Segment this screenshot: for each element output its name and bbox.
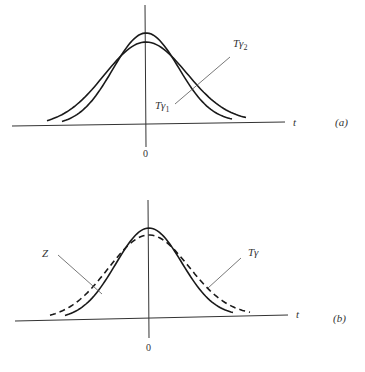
panel-b-leader-t-gamma	[208, 258, 241, 288]
panel-b-label-z: Z	[42, 247, 49, 259]
panel-a-label-t-gamma-1: Tγ1	[155, 99, 169, 114]
panel-a-vertical-axis	[145, 5, 146, 147]
panel-b-leader-z	[58, 255, 102, 294]
panel-a-panel-label: (a)	[335, 116, 348, 129]
panel-a-t-axis	[12, 122, 285, 126]
gaussian-pulse-figure: Tγ2 Tγ1 t (a) 0 Z Tγ t (b) 0	[0, 0, 365, 372]
panel-a-label-t-gamma-2: Tγ2	[233, 37, 247, 52]
panel-b-panel-label: (b)	[333, 312, 346, 325]
panel-a: Tγ2 Tγ1 t (a) 0	[12, 5, 348, 159]
panel-b-t-axis	[15, 315, 288, 321]
panel-a-leader-line	[175, 57, 230, 104]
panel-b-origin-label: 0	[146, 342, 151, 353]
panel-b-vertical-axis	[148, 200, 149, 338]
panel-a-origin-label: 0	[143, 148, 148, 159]
panel-b: Z Tγ t (b) 0	[15, 200, 346, 353]
panel-b-t-label: t	[296, 308, 300, 320]
panel-a-curve-t-gamma-2	[47, 42, 246, 121]
panel-a-t-label: t	[293, 116, 297, 128]
panel-b-curve-t-gamma	[50, 235, 250, 315]
panel-b-label-t-gamma: Tγ	[248, 246, 259, 258]
